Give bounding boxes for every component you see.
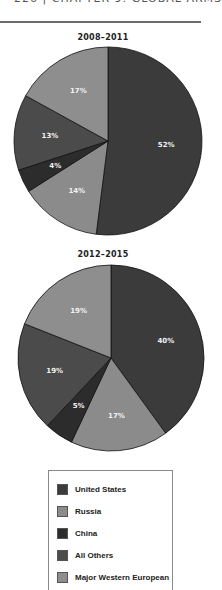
slice-percentage-label: 13% (42, 132, 59, 140)
pie-chart-2008-2011: 52%14%4%13%17% (0, 44, 206, 244)
legend-label: Major Western European (75, 573, 169, 582)
legend-label: Russia (75, 507, 101, 516)
page-header: 226 | CHAPTER 9: GLOBAL ARMS (14, 0, 222, 5)
slice-percentage-label: 4% (49, 162, 61, 170)
chart-legend: United States Russia China All Others Ma… (48, 470, 173, 590)
slice-percentage-label: 52% (158, 141, 175, 149)
slice-percentage-label: 40% (157, 337, 174, 345)
slice-percentage-label: 5% (73, 402, 85, 410)
legend-item-russia: Russia (57, 500, 172, 522)
chart-title-2012-2015: 2012–2015 (0, 250, 206, 259)
legend-item-major-western-european: Major Western European (57, 566, 172, 588)
legend-item-china: China (57, 522, 172, 544)
legend-label: All Others (75, 551, 113, 560)
chart-title-2008-2011: 2008–2011 (0, 33, 206, 42)
slice-percentage-label: 14% (68, 187, 85, 195)
header-divider (0, 21, 201, 23)
slice-percentage-label: 19% (46, 367, 63, 375)
pie-chart-2012-2015: 40%17%5%19%19% (0, 262, 206, 462)
legend-swatch-all-others (57, 550, 68, 561)
legend-swatch-united-states (57, 484, 68, 495)
legend-label: China (75, 529, 97, 538)
slice-percentage-label: 19% (70, 307, 87, 315)
legend-label: United States (75, 485, 126, 494)
legend-item-all-others: All Others (57, 544, 172, 566)
slice-percentage-label: 17% (108, 412, 125, 420)
legend-swatch-china (57, 528, 68, 539)
pie-slice-united-states (96, 47, 202, 235)
legend-swatch-russia (57, 506, 68, 517)
legend-item-united-states: United States (57, 478, 172, 500)
legend-swatch-major-western-european (57, 572, 68, 583)
slice-percentage-label: 17% (70, 87, 87, 95)
